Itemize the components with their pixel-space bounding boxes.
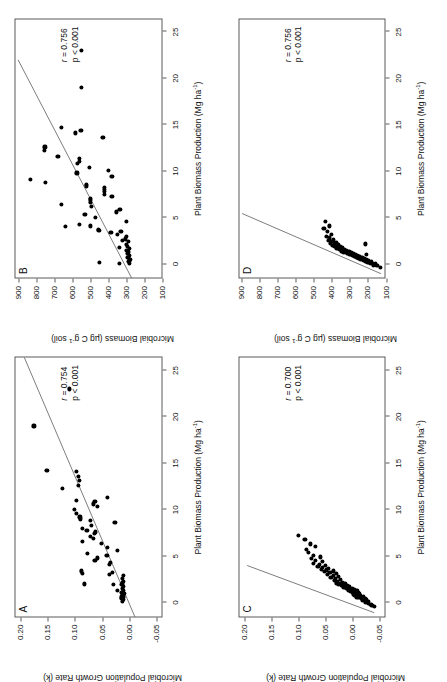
- panel-a: A r = 0.754 p < 0.001 0510152025-0.050.0…: [0, 339, 224, 678]
- data-point: [108, 230, 112, 234]
- y-tick-label: 0.00: [124, 624, 133, 640]
- data-point: [313, 558, 317, 562]
- x-tick: [162, 263, 166, 264]
- y-tick: [47, 617, 48, 621]
- x-tick: [385, 123, 389, 124]
- x-tick: [385, 263, 389, 264]
- panel-a-y-title: Microbial Population Growth Rate (k): [42, 672, 181, 682]
- data-point: [87, 165, 91, 169]
- data-point: [311, 553, 315, 557]
- y-tick: [313, 279, 314, 283]
- data-point: [67, 386, 71, 390]
- data-point: [118, 229, 122, 233]
- x-tick-label: 25: [393, 27, 402, 36]
- panel-b-y-title: Microbial Biomass (µg C g-1 soil): [50, 334, 173, 344]
- x-tick: [385, 369, 389, 370]
- x-tick: [162, 77, 166, 78]
- data-point: [331, 237, 335, 241]
- y-tick: [379, 617, 380, 621]
- y-tick-label: 0.15: [43, 624, 52, 640]
- x-tick-label: 25: [170, 27, 179, 36]
- y-tick-label: 800: [255, 286, 264, 299]
- data-point: [77, 222, 81, 226]
- data-point: [80, 539, 84, 543]
- y-tick-label: 700: [49, 286, 58, 299]
- y-tick: [244, 617, 245, 621]
- y-tick-label: -0.05: [151, 624, 160, 642]
- panel-a-x-title: Plant Biomass Production (Mg ha-1): [192, 357, 202, 618]
- x-tick-label: 0: [393, 261, 402, 265]
- data-point: [42, 145, 46, 149]
- y-tick-label: 0.00: [348, 624, 357, 640]
- x-tick-label: 20: [170, 412, 179, 421]
- data-point: [62, 224, 66, 228]
- data-point: [88, 534, 92, 538]
- panel-c-y-title: Microbial Population Growth Rate (k): [266, 672, 405, 682]
- data-point: [323, 563, 327, 567]
- data-point: [109, 174, 113, 178]
- data-point: [102, 185, 106, 189]
- x-tick: [385, 170, 389, 171]
- x-tick-label: 5: [170, 553, 179, 557]
- data-point: [323, 219, 327, 223]
- y-tick: [144, 279, 145, 283]
- y-tick-label: 200: [139, 286, 148, 299]
- y-tick-label: 600: [67, 286, 76, 299]
- data-point: [115, 548, 119, 552]
- data-point: [93, 215, 97, 219]
- y-tick-label: 0.10: [293, 624, 302, 640]
- data-point: [111, 582, 115, 586]
- data-point: [330, 568, 334, 572]
- data-point: [321, 226, 325, 230]
- data-point: [124, 234, 128, 238]
- data-point: [303, 547, 307, 551]
- data-point: [114, 232, 118, 236]
- data-point: [82, 212, 86, 216]
- data-point: [112, 520, 116, 524]
- x-tick: [162, 415, 166, 416]
- data-point: [76, 483, 80, 487]
- data-point: [320, 559, 324, 563]
- data-point: [79, 568, 83, 572]
- x-tick: [385, 77, 389, 78]
- data-point: [28, 177, 32, 181]
- y-tick-label: 200: [363, 286, 372, 299]
- data-point: [109, 194, 113, 198]
- y-tick-label: 100: [158, 286, 167, 299]
- y-tick-label: 0.15: [266, 624, 275, 640]
- x-tick: [162, 30, 166, 31]
- y-tick: [241, 279, 242, 283]
- y-tick: [277, 279, 278, 283]
- y-tick-label: 600: [291, 286, 300, 299]
- y-tick: [367, 279, 368, 283]
- regression-line: [238, 18, 386, 279]
- panel-c: C r = 0.700 p < 0.001 0510152025-0.050.0…: [224, 339, 447, 678]
- data-point: [104, 553, 108, 557]
- panel-d: D r = 0.756 p < 0.001 051015202510020030…: [224, 0, 447, 339]
- panel-b-x-title: Plant Biomass Production (Mg ha-1): [192, 18, 202, 279]
- x-tick-label: 15: [170, 120, 179, 129]
- data-point: [117, 207, 121, 211]
- data-point: [96, 227, 100, 231]
- data-point: [79, 526, 83, 530]
- panel-b-plot: B r = 0.756 p < 0.001 051015202510020030…: [14, 18, 162, 279]
- data-point: [88, 518, 92, 522]
- x-tick: [385, 555, 389, 556]
- data-point: [77, 156, 81, 160]
- data-point: [364, 252, 368, 256]
- x-tick-label: 20: [393, 73, 402, 82]
- data-point: [84, 182, 88, 186]
- data-point: [108, 560, 112, 564]
- data-point: [74, 498, 78, 502]
- data-point: [362, 242, 366, 246]
- y-tick-label: 500: [85, 286, 94, 299]
- x-tick-label: 15: [393, 120, 402, 129]
- data-point: [59, 202, 63, 206]
- y-tick-label: 0.05: [97, 624, 106, 640]
- y-tick-label: 900: [237, 286, 246, 299]
- y-tick-label: 500: [309, 286, 318, 299]
- data-point: [296, 533, 300, 537]
- y-tick: [129, 617, 130, 621]
- panel-c-plot: C r = 0.700 p < 0.001 0510152025-0.050.0…: [238, 357, 386, 618]
